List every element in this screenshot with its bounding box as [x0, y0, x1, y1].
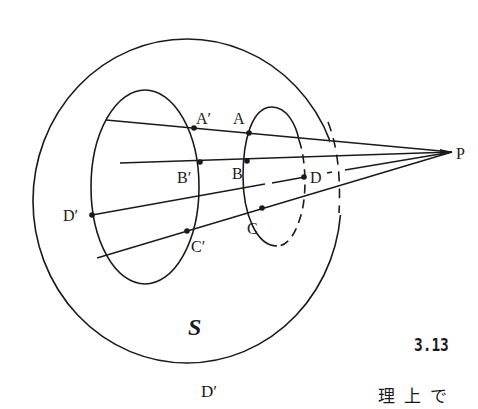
- label-a: A: [233, 110, 245, 127]
- footer-fragment-japanese: 理上で: [378, 382, 456, 407]
- region-s-circle: [33, 39, 341, 363]
- point-b-prime: [197, 159, 203, 165]
- point-d: [301, 174, 307, 180]
- footer-fragment-d-prime: D′: [201, 382, 217, 402]
- label-d-prime: D′: [63, 207, 78, 224]
- projection-diagram: A′ A B′ B D′ D C′ C P S 3.13 D′ 理上で: [0, 0, 478, 409]
- right-closed-curve-hidden: [277, 140, 305, 246]
- label-b: B: [232, 165, 243, 182]
- point-c: [259, 205, 265, 211]
- ray-through-b: [120, 152, 452, 163]
- point-p: [440, 149, 452, 156]
- point-c-prime: [184, 228, 190, 234]
- ray-through-d-mid: [272, 177, 305, 183]
- label-c-prime: C′: [191, 238, 205, 255]
- label-a-prime: A′: [196, 110, 211, 127]
- label-d: D: [310, 169, 322, 186]
- figure-number: 3.13: [414, 335, 449, 355]
- label-region-s: S: [188, 314, 201, 340]
- ray-through-d-dash: [327, 172, 332, 173]
- label-p: P: [456, 145, 465, 162]
- point-b: [244, 158, 250, 164]
- point-d-prime: [89, 212, 95, 218]
- mask: [330, 120, 354, 215]
- point-a: [246, 130, 252, 136]
- ray-through-a: [106, 120, 452, 152]
- ray-through-d-front: [92, 184, 265, 215]
- label-c: C: [247, 220, 258, 237]
- label-b-prime: B′: [177, 169, 191, 186]
